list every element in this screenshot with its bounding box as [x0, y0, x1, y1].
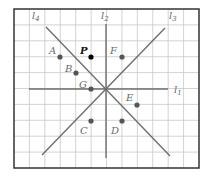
coordinate-grid-diagram: l1l2l3l4 APFBGECD [0, 0, 211, 176]
point-label-A: A [48, 45, 56, 56]
point-label-B: B [64, 63, 72, 74]
point-label-F: F [109, 45, 118, 56]
point-label-G: G [79, 79, 87, 90]
point-B [73, 70, 78, 75]
point-D [119, 118, 124, 123]
point-G [88, 86, 93, 91]
point-A [57, 54, 62, 59]
point-F [119, 54, 124, 59]
line-label-l1: l1 [174, 84, 182, 97]
line-label-l3: l3 [169, 10, 177, 23]
point-P [88, 54, 93, 59]
point-C [88, 118, 93, 123]
labeled-points: APFBGECD [48, 45, 140, 136]
point-label-P: P [79, 45, 88, 56]
line-label-l4: l4 [32, 10, 40, 23]
point-label-E: E [125, 92, 134, 103]
point-E [134, 102, 139, 107]
line-l4 [46, 27, 170, 156]
point-label-C: C [80, 125, 88, 136]
point-label-D: D [110, 125, 119, 136]
line-label-l2: l2 [101, 10, 109, 23]
